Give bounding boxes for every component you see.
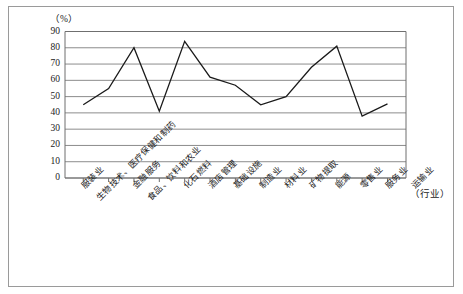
- y-tick-label: 20: [38, 140, 60, 150]
- data-line-series-1: [83, 41, 387, 116]
- y-tick-label: 70: [38, 59, 60, 69]
- y-tick-label: 80: [38, 43, 60, 53]
- y-tick-label: 40: [38, 108, 60, 118]
- x-axis-title: （行业）: [410, 186, 450, 200]
- y-tick-label: 10: [38, 157, 60, 167]
- line-chart-svg: [0, 0, 463, 294]
- figure-container: （%） 9080706050403020100服装业生物技术、医疗保健和制药金融…: [0, 0, 463, 294]
- plot-area: [0, 0, 463, 294]
- y-tick-label: 0: [38, 173, 60, 183]
- y-tick-label: 60: [38, 75, 60, 85]
- y-tick-label: 90: [38, 27, 60, 37]
- y-tick-label: 30: [38, 124, 60, 134]
- y-tick-label: 50: [38, 92, 60, 102]
- gridlines: [65, 32, 406, 179]
- axis-lines: [65, 32, 406, 179]
